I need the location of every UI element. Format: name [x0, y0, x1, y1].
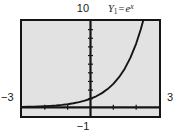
function-label-equals: =	[118, 3, 126, 14]
y-min-label: −1	[68, 121, 98, 132]
y-max-label: 10	[68, 3, 98, 14]
function-label-exponent: x	[130, 2, 133, 11]
plot-frame	[20, 19, 161, 118]
plot-canvas	[22, 21, 159, 116]
function-label: Y1=ex	[108, 3, 134, 15]
data-curve	[22, 21, 143, 107]
graph-figure: 10 Y1=ex −3 3 −1	[0, 0, 183, 140]
x-max-label: 3	[167, 92, 173, 103]
x-min-label: −3	[1, 92, 14, 103]
